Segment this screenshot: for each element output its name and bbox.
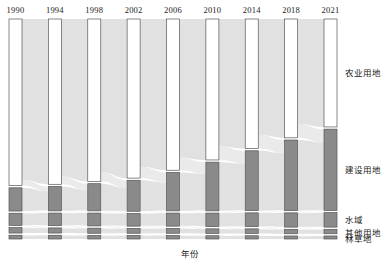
sankey-node-agriculture-1994[interactable] <box>48 19 61 184</box>
year-label-1990: 1990 <box>7 5 25 15</box>
sankey-node-construction-2010[interactable] <box>206 162 219 211</box>
sankey-node-other-2010[interactable] <box>206 229 219 234</box>
sankey-node-water-2018[interactable] <box>285 213 298 227</box>
legend-label-agriculture: 农业用地 <box>345 68 381 78</box>
sankey-node-agriculture-1998[interactable] <box>88 19 101 181</box>
year-label-1994: 1994 <box>46 5 64 15</box>
sankey-node-construction-2018[interactable] <box>285 140 298 211</box>
year-label-2021: 2021 <box>322 5 340 15</box>
sankey-node-other-1998[interactable] <box>88 228 101 233</box>
legend-label-forest: 林草地 <box>345 234 372 244</box>
sankey-node-other-1994[interactable] <box>48 228 61 233</box>
sankey-node-forest-2021[interactable] <box>324 236 337 239</box>
sankey-node-forest-1990[interactable] <box>9 235 22 239</box>
sankey-node-other-2018[interactable] <box>285 229 298 233</box>
sankey-node-water-1990[interactable] <box>9 213 22 225</box>
sankey-diagram: 199019941998200220062010201420182021 农业用… <box>0 0 391 269</box>
sankey-node-construction-1998[interactable] <box>88 184 101 211</box>
year-label-2010: 2010 <box>203 5 221 15</box>
legend-layer: 农业用地建设用地水域其他用地林草地 <box>345 68 381 245</box>
sankey-node-forest-1998[interactable] <box>88 235 101 239</box>
sankey-node-forest-2002[interactable] <box>127 235 140 239</box>
sankey-chart-container: 199019941998200220062010201420182021 农业用… <box>0 0 391 269</box>
node-layer <box>9 19 337 239</box>
sankey-node-agriculture-2018[interactable] <box>285 19 298 138</box>
sankey-node-water-2006[interactable] <box>167 213 180 226</box>
sankey-node-agriculture-2010[interactable] <box>206 19 219 160</box>
sankey-node-water-2002[interactable] <box>127 213 140 226</box>
sankey-node-other-2021[interactable] <box>324 229 337 233</box>
year-label-2018: 2018 <box>282 5 300 15</box>
sankey-node-water-1994[interactable] <box>48 213 61 226</box>
sankey-node-agriculture-2002[interactable] <box>127 19 140 178</box>
sankey-node-construction-2006[interactable] <box>167 172 180 210</box>
sankey-node-forest-2018[interactable] <box>285 236 298 239</box>
sankey-node-agriculture-1990[interactable] <box>9 19 22 186</box>
sankey-node-construction-2021[interactable] <box>324 129 337 210</box>
legend-label-construction: 建设用地 <box>345 165 381 175</box>
sankey-node-construction-2014[interactable] <box>245 151 258 211</box>
year-label-2002: 2002 <box>125 5 143 15</box>
year-label-layer: 199019941998200220062010201420182021 <box>7 5 340 15</box>
sankey-node-agriculture-2014[interactable] <box>245 19 258 149</box>
sankey-node-forest-2014[interactable] <box>245 236 258 239</box>
sankey-node-agriculture-2006[interactable] <box>167 19 180 170</box>
sankey-node-construction-1994[interactable] <box>48 187 61 211</box>
sankey-node-water-2014[interactable] <box>245 213 258 227</box>
legend-label-water: 水域 <box>345 215 363 225</box>
sankey-node-water-2021[interactable] <box>324 213 337 227</box>
sankey-node-other-2002[interactable] <box>127 228 140 233</box>
sankey-node-forest-1994[interactable] <box>48 235 61 239</box>
sankey-node-water-1998[interactable] <box>88 213 101 226</box>
sankey-node-other-2006[interactable] <box>167 228 180 233</box>
x-axis-title: 年份 <box>181 249 199 259</box>
sankey-node-agriculture-2021[interactable] <box>324 19 337 127</box>
year-label-2014: 2014 <box>243 5 261 15</box>
sankey-node-construction-2002[interactable] <box>127 180 140 211</box>
year-label-1998: 1998 <box>85 5 103 15</box>
sankey-node-forest-2010[interactable] <box>206 236 219 239</box>
year-label-2006: 2006 <box>164 5 182 15</box>
sankey-node-forest-2006[interactable] <box>167 235 180 239</box>
sankey-node-construction-1990[interactable] <box>9 188 22 211</box>
sankey-node-water-2010[interactable] <box>206 213 219 227</box>
sankey-node-other-2014[interactable] <box>245 229 258 234</box>
sankey-node-other-1990[interactable] <box>9 228 22 233</box>
